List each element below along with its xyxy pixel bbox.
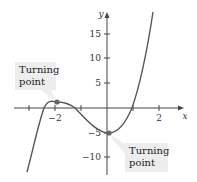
y-tick-label: 10 xyxy=(90,53,102,63)
x-axis-arrow-icon xyxy=(178,106,184,111)
x-axis-label: x xyxy=(182,111,187,121)
callout-text-line: Turning xyxy=(129,145,164,157)
callout-turning-point-min: Turning point xyxy=(125,143,168,172)
callout-text-line: Turning xyxy=(19,64,52,76)
callout-turning-point-max: Turning point xyxy=(15,62,56,90)
x-tick-label: −2 xyxy=(48,113,61,123)
y-axis-label: y xyxy=(97,9,104,19)
y-tick-label: 15 xyxy=(90,29,102,39)
turning-point-min-marker xyxy=(106,130,111,135)
y-axis-arrow-icon xyxy=(105,12,110,18)
y-tick-label: −10 xyxy=(82,152,101,162)
x-tick-label: 2 xyxy=(156,113,162,123)
y-tick-label: 5 xyxy=(95,78,101,88)
callout-pointer-max xyxy=(38,88,57,102)
callout-text-line: point xyxy=(129,157,164,169)
callout-text-line: point xyxy=(19,76,52,88)
turning-point-max-marker xyxy=(54,99,59,104)
